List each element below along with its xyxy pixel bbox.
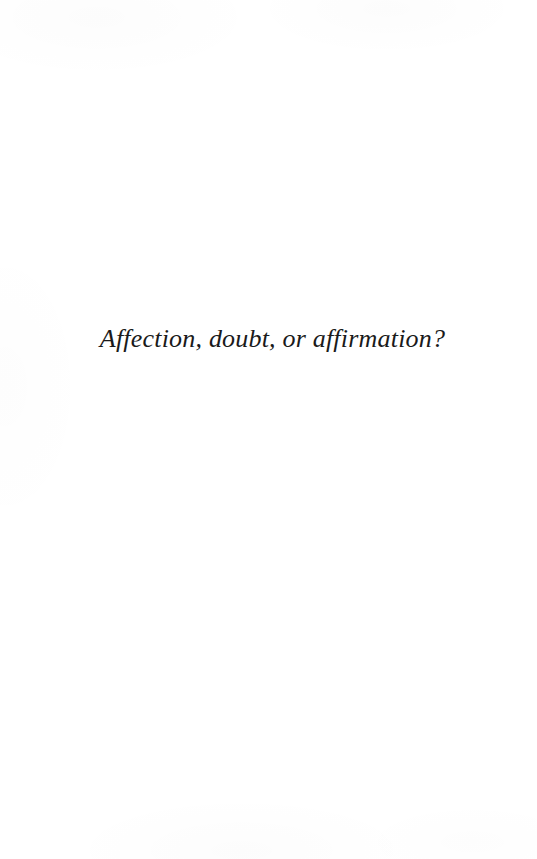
scanned-page: Affection, doubt, or affirmation?	[0, 0, 537, 859]
epigraph-block: Affection, doubt, or affirmation?	[0, 0, 537, 352]
epigraph-text: Affection, doubt, or affirmation?	[100, 326, 445, 352]
